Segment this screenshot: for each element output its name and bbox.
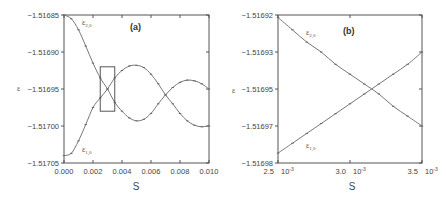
x-tick-label: 3.0 <box>336 167 346 176</box>
curve-10 <box>278 52 422 153</box>
x-tick-label: 2.5 <box>264 167 274 176</box>
panel-a: −1.51685−1.51690−1.51695−1.51700−1.51705… <box>17 11 218 193</box>
curves-b <box>277 17 423 153</box>
plot-frame-a <box>64 15 209 163</box>
y-tick-label: −1.51695 <box>28 85 60 94</box>
x-tick-exponent: 10-3 <box>425 166 438 176</box>
x-tick-label: 0.002 <box>84 167 103 176</box>
x-tick-label: 0.008 <box>171 167 190 176</box>
plot-frame-b <box>278 15 422 163</box>
x-tick-label: 0.006 <box>142 167 161 176</box>
y-tick-label: −1.51700 <box>28 122 60 131</box>
y-tick-label: −1.51685 <box>28 11 60 20</box>
curve-10 <box>64 65 209 155</box>
x-tick-exponent: 10-3 <box>353 166 366 176</box>
x-axis-title-a: S <box>133 181 140 192</box>
y-axis-a: −1.51685−1.51690−1.51695−1.51700−1.51705 <box>28 11 210 168</box>
x-tick-label: 3.5 <box>408 167 418 176</box>
curve-label-e10-b: ε1,0 <box>306 141 316 152</box>
figure: −1.51685−1.51690−1.51695−1.51700−1.51705… <box>0 0 446 205</box>
x-axis-a: 0.0000.0020.0040.0060.0080.010 <box>55 15 219 176</box>
panel-b: −1.51692−1.51693−1.51695−1.51697−1.51698… <box>232 11 438 193</box>
y-tick-label: −1.51690 <box>28 48 60 57</box>
x-axis-b: 2.510-33.010-33.510-3 <box>264 15 438 176</box>
y-axis-b: −1.51692−1.51693−1.51695−1.51697−1.51698 <box>242 11 423 168</box>
y-tick-label: −1.51697 <box>242 122 274 131</box>
curve-label-e20-b: ε2,0 <box>306 28 316 39</box>
y-axis-title-a: ε <box>17 84 21 93</box>
curves-a <box>63 15 210 156</box>
x-tick-label: 0.004 <box>113 167 132 176</box>
curve-label-e20-a: ε2,0 <box>82 18 92 29</box>
y-tick-label: −1.51693 <box>242 48 274 57</box>
panel-label-b: (b) <box>343 26 355 36</box>
panel-label-a: (a) <box>130 22 141 32</box>
y-axis-title-b: ε <box>232 86 236 95</box>
x-tick-exponent: 10-3 <box>281 166 294 176</box>
x-tick-label: 0.010 <box>200 167 219 176</box>
x-axis-title-b: S <box>349 181 356 192</box>
x-tick-label: 0.000 <box>55 167 74 176</box>
curve-label-e10-a: ε1,0 <box>82 145 92 156</box>
y-tick-label: −1.51695 <box>242 85 274 94</box>
y-tick-label: −1.51692 <box>242 11 274 20</box>
